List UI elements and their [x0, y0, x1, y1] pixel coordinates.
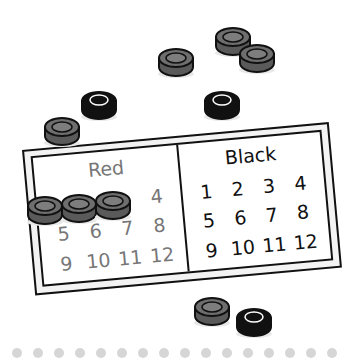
black-number-12: 12: [293, 230, 319, 254]
black-number-7: 7: [265, 204, 279, 227]
footer-dot: [54, 348, 64, 358]
footer-dot: [201, 348, 211, 358]
black-number-grid: 123456789101112: [189, 167, 323, 267]
red-checker-icon: [157, 47, 195, 83]
footer-dot: [117, 348, 127, 358]
footer-dot: [75, 348, 85, 358]
footer-dot: [180, 348, 190, 358]
red-checker-icon: [238, 43, 276, 79]
black-number-2: 2: [231, 177, 245, 200]
black-number-9: 9: [205, 239, 219, 262]
footer-dot: [327, 348, 337, 358]
black-checker-icon: [80, 90, 118, 126]
red-number-10: 10: [85, 249, 111, 273]
footer-dot: [285, 348, 295, 358]
red-checker-icon: [94, 190, 132, 226]
footer-dots: [0, 348, 349, 358]
black-number-3: 3: [262, 174, 276, 197]
black-number-10: 10: [230, 235, 256, 259]
black-number-4: 4: [293, 171, 307, 194]
black-checker-icon: [203, 90, 241, 126]
red-checker-icon: [26, 195, 64, 231]
red-number-4: 4: [150, 184, 164, 207]
red-number-9: 9: [59, 252, 73, 275]
black-half: Black 123456789101112: [178, 132, 331, 271]
black-checker-icon: [235, 307, 273, 343]
black-number-6: 6: [233, 206, 247, 229]
footer-dot: [222, 348, 232, 358]
red-checker-icon: [193, 296, 231, 332]
black-number-8: 8: [296, 201, 310, 224]
footer-dot: [306, 348, 316, 358]
black-number-5: 5: [202, 209, 216, 232]
footer-dot: [138, 348, 148, 358]
black-number-1: 1: [199, 180, 213, 203]
footer-dot: [159, 348, 169, 358]
footer-dot: [264, 348, 274, 358]
footer-dot: [96, 348, 106, 358]
footer-dot: [33, 348, 43, 358]
red-checker-icon: [43, 116, 81, 152]
red-number-12: 12: [149, 243, 175, 267]
footer-dot: [12, 348, 22, 358]
red-checker-icon: [60, 193, 98, 229]
red-number-8: 8: [152, 214, 166, 237]
black-number-11: 11: [261, 233, 287, 257]
footer-dot: [243, 348, 253, 358]
red-number-11: 11: [117, 246, 143, 270]
